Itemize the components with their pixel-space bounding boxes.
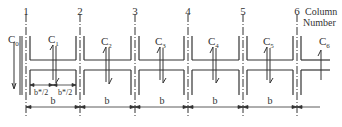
span-label-2: b: [105, 95, 110, 106]
span-dimension-line: [26, 106, 320, 109]
cell-label-c2: C2: [101, 35, 112, 50]
legend-number: Number: [303, 17, 336, 28]
half-span-dimension: [30, 84, 76, 87]
cell-label-c1: C1: [48, 33, 59, 48]
column-number-2: 2: [77, 5, 83, 17]
span-labels: b b b b b: [51, 95, 273, 106]
legend-column: Column: [305, 6, 337, 17]
cell-labels: C0 C1 C2 C3 C4 C5 C6: [8, 33, 330, 50]
cell-label-c4: C4: [208, 35, 219, 50]
span-label-3: b: [160, 95, 165, 106]
column-number-6: 6: [294, 5, 300, 17]
span-label-5: b: [268, 95, 273, 106]
column-number-4: 4: [185, 5, 191, 17]
column-numbers: 1 2 3 4 5 6: [23, 5, 300, 17]
span-label-1: b: [51, 95, 56, 106]
cell-label-c5: C5: [263, 35, 274, 50]
flow-arrows: [12, 42, 321, 89]
half-span-label-right: b*/2: [58, 88, 72, 97]
half-span-label-left: b*/2: [34, 88, 48, 97]
cell-label-c3: C3: [155, 35, 166, 50]
cell-label-c6: C6: [319, 35, 330, 50]
column-number-5: 5: [240, 5, 246, 17]
column-number-1: 1: [23, 5, 29, 17]
span-label-4: b: [213, 95, 218, 106]
column-number-3: 3: [132, 5, 138, 17]
column-cell-diagram: 1 2 3 4 5 6 Column Number C0 C1 C2 C3 C4…: [0, 0, 342, 127]
cell-c0-walls: [20, 36, 22, 95]
horizontal-channel: [30, 60, 330, 70]
